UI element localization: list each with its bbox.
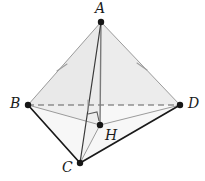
vertex-label-D: D: [188, 96, 199, 110]
vertex-dot-B[interactable]: [25, 102, 31, 108]
vertex-label-C: C: [62, 160, 73, 174]
edge-AH-altitude: [100, 22, 101, 125]
tetrahedron-drawing: [0, 0, 205, 181]
faces-group: [28, 22, 180, 163]
vertex-label-B: B: [10, 96, 20, 110]
face-BCD-upper: [28, 105, 180, 163]
vertex-dot-C[interactable]: [77, 160, 83, 166]
vertex-dot-A[interactable]: [98, 19, 104, 25]
geometry-figure: A B D C H: [0, 0, 205, 181]
vertex-dot-H[interactable]: [97, 122, 103, 128]
vertex-dot-D[interactable]: [177, 102, 183, 108]
vertex-label-A: A: [95, 1, 105, 15]
vertex-label-H: H: [105, 128, 117, 142]
